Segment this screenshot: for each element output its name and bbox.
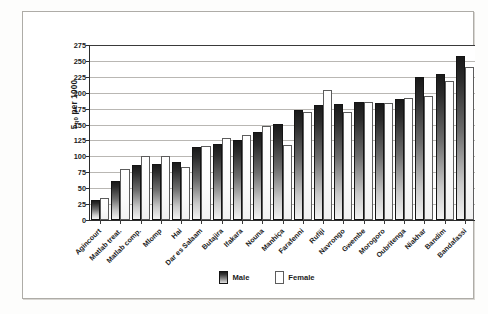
bar-male [172,162,181,220]
bar-male [334,104,343,220]
bar-male [213,144,222,220]
bar-group [272,45,292,220]
bar-group [171,45,191,220]
bar-group [394,45,414,220]
bar-male [314,105,323,220]
bar-male [415,77,424,220]
y-axis-tick-label: 175 [52,104,86,113]
bar-group [293,45,313,220]
bar-male [436,74,445,220]
bar-group [131,45,151,220]
y-axis-tick-label: 225 [52,72,86,81]
legend-item-female[interactable]: Female [275,271,314,284]
bar-group [333,45,353,220]
legend-label: Female [288,273,314,282]
y-axis-tick-label: 100 [52,152,86,161]
bar-female [201,146,210,220]
bar-female [120,169,129,220]
bar-male [253,132,262,220]
bar-female [323,90,332,220]
bar-female [141,156,150,220]
bar-male [273,124,282,220]
bar-male [395,99,404,220]
y-axis-tick-label: 150 [52,120,86,129]
bar-group [353,45,373,220]
bar-female [100,198,109,220]
bar-female [404,98,413,220]
bar-male [233,140,242,220]
bar-group [374,45,394,220]
legend-label: Male [232,273,249,282]
bar-group [252,45,272,220]
bar-group [455,45,475,220]
bar-group [191,45,211,220]
y-axis-tick-label: 25 [52,200,86,209]
y-axis-tick-label: 275 [52,41,86,50]
bar-female [384,103,393,220]
bar-male [192,147,201,220]
bar-group [212,45,232,220]
bar-series-container [90,45,475,220]
plot-area: 2752502252001751501251007550250 [89,45,475,221]
bar-female [465,67,474,220]
bar-male [294,110,303,220]
y-axis-tick-label: 125 [52,136,86,145]
y-axis-tick-label: 200 [52,88,86,97]
bar-group [414,45,434,220]
bar-male [91,200,100,220]
bar-female [445,81,454,220]
legend-swatch-male [219,271,228,284]
bar-female [181,167,190,220]
bar-group [232,45,252,220]
bar-female [424,96,433,220]
bar-female [283,145,292,220]
legend-item-male[interactable]: Male [219,271,249,284]
bar-female [222,138,231,220]
bar-male [132,165,141,220]
bar-group [435,45,455,220]
bar-male [354,102,363,220]
y-axis-tick-label: 250 [52,56,86,65]
bar-female [364,102,373,220]
legend-swatch-female [275,271,284,284]
chart-legend: MaleFemale [23,271,488,284]
bar-female [161,156,170,220]
bar-female [262,126,271,220]
y-axis-tick-label: 50 [52,184,86,193]
bar-female [343,112,352,220]
bar-group [151,45,171,220]
bar-group [313,45,333,220]
figure-frame: 5q0 per 1000 275250225200175150125100755… [22,11,474,299]
bar-group [110,45,130,220]
bar-male [375,103,384,220]
bar-male [152,164,161,220]
y-axis-tick-mark [86,220,90,221]
figure-root: 5q0 per 1000 275250225200175150125100755… [0,0,488,314]
y-axis-tick-label: 75 [52,168,86,177]
x-axis-tick-label: Hai [170,225,186,241]
bar-female [242,135,251,220]
bar-male [456,56,465,220]
bar-female [303,112,312,220]
bar-male [111,181,120,220]
bar-group [90,45,110,220]
y-axis-tick-label: 0 [52,216,86,225]
